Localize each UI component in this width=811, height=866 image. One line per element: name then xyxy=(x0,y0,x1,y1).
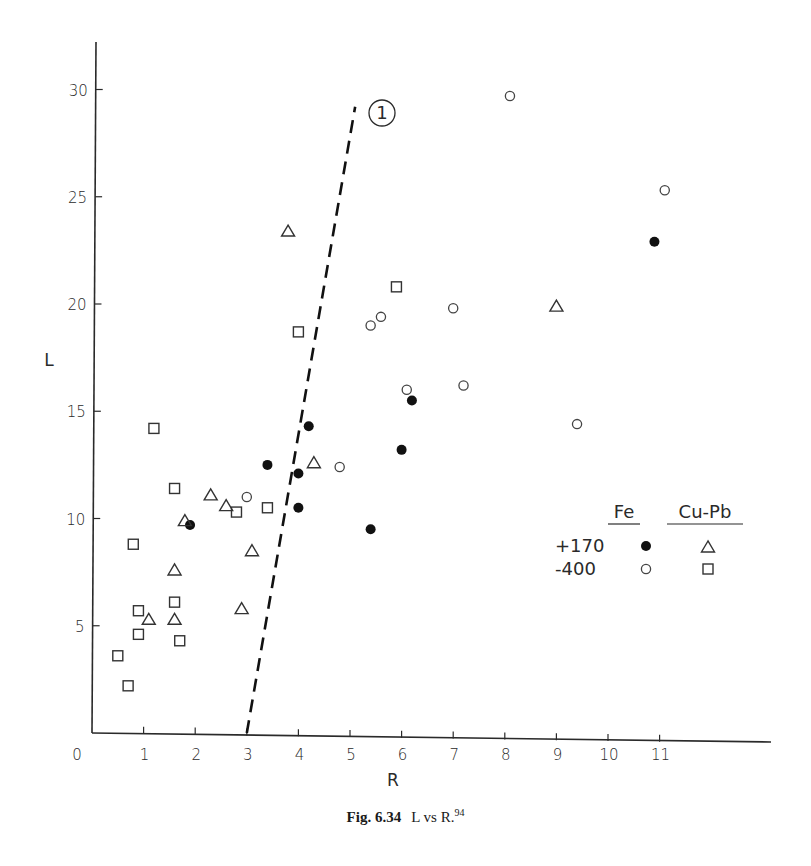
x-tick-label: 9 xyxy=(553,746,563,764)
open-triangle-marker xyxy=(235,603,248,614)
open-square-marker xyxy=(175,636,185,646)
x-axis-label: R xyxy=(387,770,399,790)
open-circle-marker xyxy=(366,321,375,330)
open-square-marker xyxy=(391,282,401,292)
open-square-marker xyxy=(262,503,272,513)
open-triangle-marker xyxy=(142,613,155,624)
open-square-marker xyxy=(170,483,180,493)
open-triangle-marker xyxy=(204,489,217,500)
circled-label-text: 1 xyxy=(376,102,387,123)
legend-row-header: -400 xyxy=(555,558,596,579)
open-triangle-marker xyxy=(220,500,233,511)
open-square-marker xyxy=(133,606,143,616)
x-tick-label: 2 xyxy=(191,746,201,764)
open-circle-marker xyxy=(505,91,514,100)
x-tick-label: 8 xyxy=(501,746,511,764)
filled-circle-marker xyxy=(304,421,314,431)
filled-circle-marker xyxy=(262,460,272,470)
open-circle-marker xyxy=(572,420,581,429)
filled-circle-marker xyxy=(649,237,659,247)
filled-circle-marker xyxy=(185,520,195,530)
open-square-marker xyxy=(113,651,123,661)
filled-circle-marker xyxy=(397,445,407,455)
open-circle-marker xyxy=(660,186,669,195)
legend-column-header: Cu-Pb xyxy=(679,501,732,522)
figure-number: Fig. 6.34 xyxy=(347,809,402,825)
open-circle-marker xyxy=(242,492,251,501)
open-square-marker xyxy=(231,507,241,517)
dashed-line xyxy=(247,107,355,733)
x-tick-label: 10 xyxy=(599,746,618,764)
open-circle-marker xyxy=(459,381,468,390)
open-square-marker xyxy=(149,423,159,433)
open-triangle-marker xyxy=(168,564,181,575)
dashed-divider-line: 1 xyxy=(247,100,395,733)
open-circle-marker xyxy=(335,462,344,471)
legend: FeCu-Pb+170-400 xyxy=(555,501,743,579)
x-tick-label: 7 xyxy=(449,746,459,764)
scatter-chart: 0123456789101151015202530 1 FeCu-Pb+170-… xyxy=(0,0,811,800)
y-axis-line xyxy=(92,42,96,733)
y-tick-label: 30 xyxy=(69,82,88,100)
open-square-marker xyxy=(133,629,143,639)
filled-circle-marker xyxy=(366,524,376,534)
x-tick-label: 11 xyxy=(651,746,670,764)
x-axis-line xyxy=(92,733,771,742)
open-circle-marker xyxy=(376,312,385,321)
x-tick-label: 6 xyxy=(398,746,408,764)
open-square-marker xyxy=(123,681,133,691)
filled-circle-marker xyxy=(407,396,417,406)
open-square-marker xyxy=(128,539,138,549)
open-square-marker xyxy=(293,327,303,337)
x-tick-label: 5 xyxy=(346,746,356,764)
x-tick-label: 4 xyxy=(295,746,305,764)
filled-circle-marker xyxy=(293,503,303,513)
x-tick-label: 1 xyxy=(140,746,150,764)
y-tick-label: 20 xyxy=(67,296,86,314)
open-circle-marker xyxy=(449,304,458,313)
x-tick-label: 3 xyxy=(243,746,253,764)
y-tick-label: 15 xyxy=(67,403,86,421)
open-triangle-marker xyxy=(245,545,258,556)
open-triangle-marker xyxy=(550,300,563,311)
y-tick-label: 5 xyxy=(75,618,85,636)
open-circle-marker xyxy=(641,564,650,573)
open-circle-marker xyxy=(402,385,411,394)
open-square-marker xyxy=(703,564,713,574)
x-tick-label: 0 xyxy=(72,746,82,764)
filled-circle-marker xyxy=(293,468,303,478)
figure-caption: Fig. 6.34L vs R.94 xyxy=(0,807,811,826)
axes xyxy=(92,42,771,742)
open-triangle-marker xyxy=(307,457,320,468)
legend-row-header: +170 xyxy=(555,535,604,556)
data-points xyxy=(113,91,670,690)
legend-column-header: Fe xyxy=(614,501,634,522)
caption-reference: 94 xyxy=(454,807,464,818)
open-square-marker xyxy=(170,597,180,607)
open-triangle-marker xyxy=(168,613,181,624)
y-tick-label: 10 xyxy=(66,511,85,529)
y-tick-label: 25 xyxy=(68,189,87,207)
open-triangle-marker xyxy=(282,225,295,236)
caption-text: L vs R. xyxy=(411,809,454,825)
filled-circle-marker xyxy=(641,541,651,551)
y-axis-label: L xyxy=(44,350,54,370)
open-triangle-marker xyxy=(702,541,715,552)
